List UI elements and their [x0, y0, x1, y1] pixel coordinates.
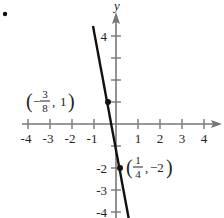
- data-point: [105, 99, 111, 105]
- svg-text:8: 8: [42, 102, 48, 114]
- svg-text:(: (: [126, 156, 133, 179]
- y-tick-label: -4: [96, 205, 107, 218]
- svg-text:,: ,: [145, 160, 148, 175]
- x-tick-label: -3: [43, 131, 54, 146]
- svg-text:): ): [68, 90, 75, 113]
- svg-text:4: 4: [135, 168, 141, 180]
- svg-text:(: (: [26, 90, 33, 113]
- y-tick-label: -3: [96, 183, 107, 198]
- x-tick-label: 2: [157, 131, 164, 146]
- problem-marker: [3, 12, 7, 16]
- y-tick-label: 4: [101, 29, 108, 44]
- data-point: [117, 165, 123, 171]
- x-tick-label: 3: [179, 131, 186, 146]
- svg-text:,: ,: [52, 94, 55, 109]
- x-tick-label: 4: [201, 131, 208, 146]
- x-axis: -4 -3 -2 -1 1 2 3 4: [21, 119, 222, 146]
- y-axis-label: y: [112, 0, 120, 13]
- x-tick-label: 1: [135, 131, 142, 146]
- svg-text:1: 1: [60, 94, 67, 109]
- svg-text:−: −: [33, 94, 40, 109]
- point-label: ( 1 4 , −2 ): [126, 154, 173, 180]
- svg-text:3: 3: [42, 88, 48, 100]
- x-tick-label: -4: [21, 131, 32, 146]
- x-tick-label: -2: [65, 131, 76, 146]
- svg-text:−2: −2: [150, 160, 164, 175]
- graph: -4 -3 -2 -1 1 2 3 4 y 4 -2 -3 -4: [0, 0, 224, 218]
- svg-text:): ): [166, 156, 173, 179]
- y-tick-label: -2: [96, 161, 107, 176]
- x-tick-label: -1: [87, 131, 98, 146]
- svg-text:1: 1: [135, 154, 141, 166]
- point-label: ( − 3 8 , 1 ): [26, 88, 75, 114]
